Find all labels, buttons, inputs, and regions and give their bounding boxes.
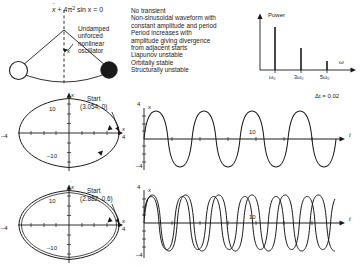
wave2-y-max-tick: 4 [137, 184, 140, 190]
spectrum-x-axis-label: ω [339, 59, 344, 65]
wave1-t-axis-arrowhead [340, 137, 346, 142]
pendulum-caption-line-2: unforced [78, 32, 109, 39]
phase1-direction-arrow-2 [108, 125, 113, 131]
phase1-direction-arrow-1 [98, 151, 103, 156]
waveform-chart-single [136, 104, 362, 174]
note-line-2: Non-sinusoidal waveform with [131, 14, 241, 21]
equation-tail: sin x = 0 [75, 6, 103, 13]
equation-plus-term: + 4 [56, 6, 68, 13]
pendulum-bob-open [10, 62, 28, 80]
phase1-x-max-tick: 4 [122, 134, 125, 140]
note-line-9: Structurally unstable [131, 66, 241, 73]
pendulum-caption-line-3: nonlinear [78, 40, 109, 47]
figure-canvas: x x ¨ + 4π2 sin x = 0 Undamped unforced … [0, 0, 363, 273]
spectrum-y-axis-label: Power [268, 12, 285, 18]
phase1-start-pointer-arrowhead [115, 126, 119, 132]
wave1-y-axis-label: x [148, 104, 151, 110]
waveform-chart-divergence [136, 186, 362, 264]
phase2-y-max-tick: 10 [49, 198, 56, 204]
phase2-direction-arrow [108, 217, 113, 223]
pendulum-angle-label: x [67, 48, 70, 54]
phase2-y-min-tick: –10 [47, 245, 57, 251]
pendulum-rod-left [22, 30, 64, 66]
equation-double-dot: ¨ [53, 2, 55, 9]
phase2-x-max-tick: 4 [122, 226, 125, 232]
phase2-x-min-tick: –4 [1, 225, 8, 231]
wave2-t-axis-label: t [349, 216, 351, 222]
phase2-start-coords: (2.882, 0.6) [80, 195, 113, 202]
pendulum-caption-line-1: Undamped [78, 25, 109, 32]
power-spectrum-chart [248, 8, 360, 78]
phase-portrait-1 [4, 88, 129, 176]
behaviour-notes: No transient Non-sinusoidal waveform wit… [131, 7, 241, 74]
phase1-x-axis-label: x [122, 126, 125, 132]
phase2-x-axis-label: x [122, 218, 125, 224]
spectrum-x-axis-arrowhead [351, 67, 357, 72]
phase1-y-max-tick: 10 [49, 106, 56, 112]
phase-portrait-2 [4, 180, 129, 268]
delta-t-label: Δt = 0.02 [315, 93, 339, 99]
spectrum-tick-label-1: ω₀ [269, 74, 275, 80]
wave2-x-tick-label: 10 [249, 214, 256, 220]
phase1-y-min-tick: –10 [47, 153, 57, 159]
phase1-start-label: Start [87, 95, 101, 102]
pendulum-bob-filled [101, 62, 117, 78]
wave1-x-tick-label: 10 [249, 129, 256, 135]
phase1-start-coords: (3.054, 0) [80, 103, 107, 110]
wave2-y-axis-label: x [148, 187, 151, 193]
note-line-6: from adjacent starts [131, 44, 241, 51]
note-line-3: constant amplitude and period [131, 22, 241, 29]
phase1-x-min-tick: –4 [1, 133, 8, 139]
wave2-y-min-tick: –4 [136, 252, 143, 258]
note-line-8: Orbitally stable [131, 59, 241, 66]
phase2-y-axis-dot: ˙ [70, 180, 72, 186]
phase2-start-label: Start [87, 187, 101, 194]
pendulum-caption: Undamped unforced nonlinear oscillator [78, 25, 109, 55]
note-line-5: amplitude giving divergence [131, 37, 241, 44]
phase1-y-axis-dot: ˙ [70, 88, 72, 94]
wave1-t-axis-label: t [349, 132, 351, 138]
pendulum-caption-line-4: oscillator [78, 47, 109, 54]
pendulum-diagram [0, 8, 130, 88]
note-line-7: Liapunov unstable [131, 51, 241, 58]
note-line-4: Period increases with [131, 29, 241, 36]
wave2-t-axis-arrowhead [340, 221, 346, 226]
spectrum-tick-label-2: 3ω₀ [294, 74, 303, 80]
note-line-1: No transient [131, 7, 241, 14]
governing-equation: x ¨ + 4π2 sin x = 0 [52, 5, 103, 13]
wave1-y-min-tick: –4 [136, 163, 143, 169]
phase1-start-pointer [112, 112, 119, 129]
spectrum-tick-label-3: 5ω₀ [320, 74, 329, 80]
spectrum-y-axis-arrowhead [257, 14, 262, 20]
wave1-y-max-tick: 4 [137, 101, 140, 107]
